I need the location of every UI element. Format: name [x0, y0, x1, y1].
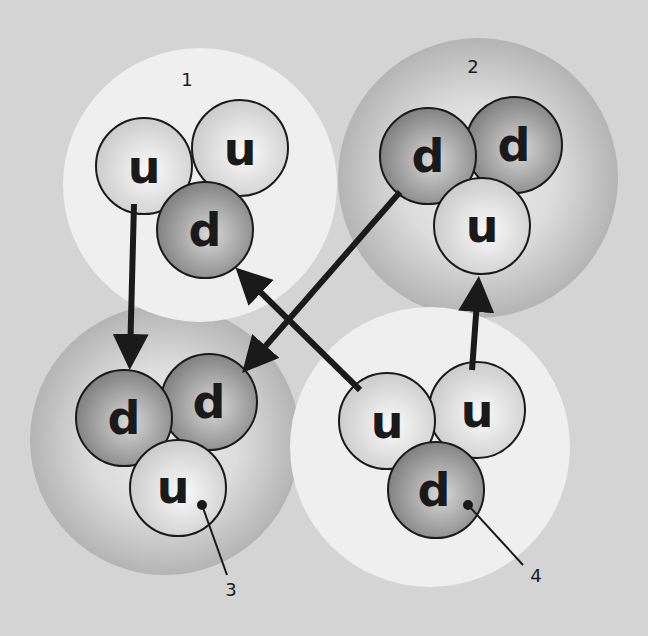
quark-label: d — [108, 391, 141, 445]
callout-dot — [198, 501, 206, 509]
quark-label: u — [371, 395, 404, 449]
callout-dot — [464, 501, 472, 509]
nucleon-label-2: 2 — [467, 56, 478, 77]
nucleon-label-1: 1 — [181, 69, 192, 90]
quark-label: u — [157, 460, 190, 514]
quark-label: d — [418, 463, 451, 517]
quark-label: u — [466, 199, 499, 253]
quark-label: u — [224, 122, 257, 176]
nucleon-label-3: 3 — [225, 579, 236, 600]
quark-label: d — [189, 203, 222, 257]
quark-diagram: 1 2 3 4 u u d d d u d d u u u d — [0, 0, 648, 636]
quark-label: d — [412, 129, 445, 183]
quark-label: u — [461, 384, 494, 438]
quark-label: d — [193, 375, 226, 429]
quark-label: u — [128, 140, 161, 194]
arrow-1-to-3 — [130, 204, 134, 358]
quark-label: d — [498, 118, 531, 172]
nucleon-label-4: 4 — [530, 565, 541, 586]
